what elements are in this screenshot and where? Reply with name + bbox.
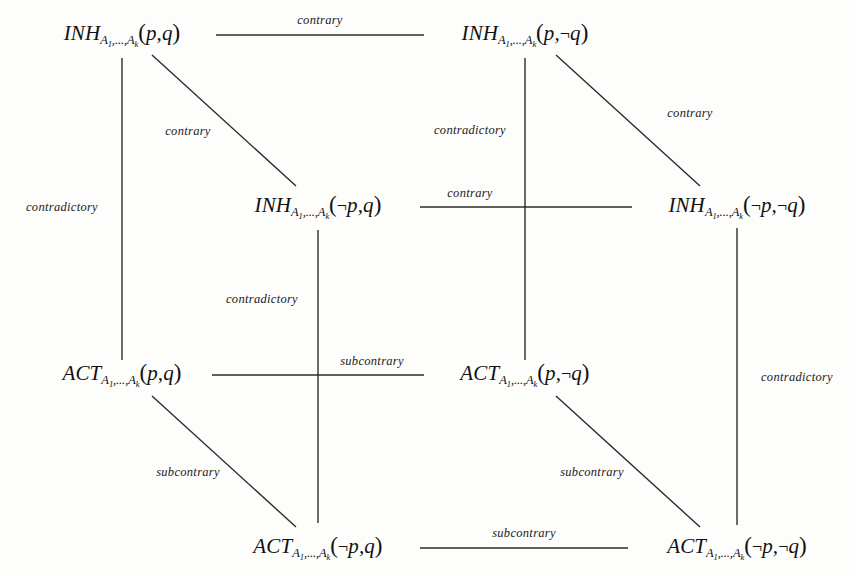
close-paren: ) [174,360,182,385]
edge-label-e-diagonal-top-left: contrary [165,125,210,138]
node-inh-notp-notq: INHA1,...,Ak(¬p,¬q) [668,193,805,220]
close-paren: ) [798,192,806,217]
close-paren: ) [173,20,181,45]
edge-label-e-inner-vertical: contradictory [226,293,298,306]
agent-subscript: A1,...,Ak [291,205,329,219]
agent-subscript: A1,...,Ak [101,373,139,387]
negation-icon: ¬ [560,24,570,44]
agent-subscript: A1,...,Ak [292,546,330,560]
node-inh-p-q: INHA1,...,Ak(p,q) [64,21,181,48]
operator-label: ACT [667,534,706,558]
edge-label-e-top-horizontal: contrary [297,14,342,27]
edge-label-e-center-vertical: contradictory [434,124,506,137]
edge-e-diagonal-top-left [152,55,296,186]
negation-icon: ¬ [338,537,348,557]
open-paren: ( [139,360,147,385]
agent-subscript: A1,...,Ak [100,33,138,47]
edge-e-diagonal-bottom-right [556,396,700,527]
open-paren: ( [744,533,752,558]
negation-icon: ¬ [751,196,761,216]
close-paren: ) [581,20,589,45]
node-act-notp-q: ACTA1,...,Ak(¬p,q) [253,534,382,561]
edge-e-diagonal-bottom-left [152,396,296,527]
edge-label-e-middle-horizontal: contrary [447,187,492,200]
close-paren: ) [375,533,383,558]
negation-icon: ¬ [561,364,571,384]
open-paren: ( [330,533,338,558]
opposition-cube-diagram: INHA1,...,Ak(p,q)INHA1,...,Ak(p,¬q)INHA1… [0,0,857,577]
edge-label-e-left-vertical: contradictory [26,201,98,214]
agent-subscript: A1,...,Ak [706,546,744,560]
edge-label-e-diagonal-top-right: contrary [667,107,712,120]
negation-icon: ¬ [337,196,347,216]
negation-icon: ¬ [752,537,762,557]
close-paren: ) [374,192,382,217]
operator-label: ACT [460,361,499,385]
edge-label-e-right-vertical: contradictory [761,371,833,384]
operator-label: INH [255,193,291,217]
agent-subscript: A1,...,Ak [498,33,536,47]
close-paren: ) [799,533,807,558]
node-act-notp-notq: ACTA1,...,Ak(¬p,¬q) [667,534,807,561]
edge-label-e-bottom-horizontal: subcontrary [492,527,556,540]
negation-icon: ¬ [777,196,787,216]
close-paren: ) [582,360,590,385]
open-paren: ( [537,360,545,385]
agent-subscript: A1,...,Ak [499,373,537,387]
operator-label: ACT [253,534,292,558]
edge-label-e-diagonal-bottom-right: subcontrary [560,466,624,479]
node-act-p-notq: ACTA1,...,Ak(p,¬q) [460,361,589,388]
node-act-p-q: ACTA1,...,Ak(p,q) [63,361,182,388]
edge-e-diagonal-top-right [556,55,700,186]
edge-lines-layer [0,0,857,577]
operator-label: INH [64,21,100,45]
agent-subscript: A1,...,Ak [705,205,743,219]
negation-icon: ¬ [778,537,788,557]
node-inh-notp-q: INHA1,...,Ak(¬p,q) [255,193,382,220]
edge-label-e-diagonal-bottom-left: subcontrary [156,466,220,479]
operator-label: ACT [63,361,102,385]
operator-label: INH [462,21,498,45]
node-inh-p-notq: INHA1,...,Ak(p,¬q) [462,21,589,48]
operator-label: INH [668,193,704,217]
edge-label-e-act-horizontal: subcontrary [340,355,404,368]
